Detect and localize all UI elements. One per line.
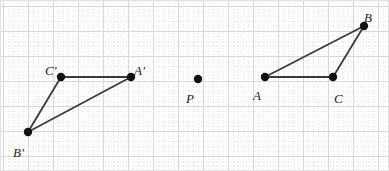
vertex-label-p: P [186, 92, 194, 105]
vertex-label-a: A [253, 89, 261, 102]
vertex-label-a-prime: A' [134, 64, 145, 77]
grid-minor-lines [0, 0, 389, 171]
vertex-label-c: C [334, 92, 343, 105]
grid-layer [0, 0, 389, 171]
geometry-figure: BACPA'C'B' [0, 0, 389, 171]
grid-major-lines [0, 0, 389, 171]
vertex-label-b: B [364, 11, 372, 24]
vertex-label-c-prime: C' [45, 64, 57, 77]
vertex-label-b-prime: B' [13, 146, 24, 159]
